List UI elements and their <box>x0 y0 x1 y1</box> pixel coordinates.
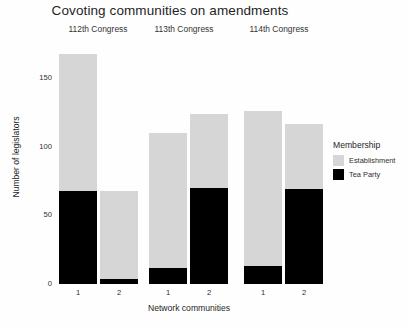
y-tick-label-150: 150 <box>30 73 52 82</box>
y-axis-title: Number of legislators <box>11 97 21 217</box>
x-tick-label: 2 <box>100 288 138 297</box>
y-tick-label-50: 50 <box>30 210 52 219</box>
facet-panel-112th <box>55 44 139 284</box>
facet-label-112th: 112th Congress <box>53 24 143 34</box>
facet-label-114th: 114th Congress <box>234 24 324 34</box>
x-tick-label: 1 <box>59 288 97 297</box>
legend: Membership Establishment Tea Party <box>333 140 407 183</box>
x-tick-label: 1 <box>244 288 282 297</box>
y-tick-label-100: 100 <box>30 142 52 151</box>
bar-segment-tea-party[interactable] <box>149 268 187 284</box>
bar-segment-tea-party[interactable] <box>285 189 323 284</box>
legend-swatch-establishment <box>333 155 344 166</box>
bar-segment-tea-party[interactable] <box>100 279 138 284</box>
legend-label-teaparty: Tea Party <box>349 170 380 179</box>
facet-panel-113th <box>145 44 229 284</box>
y-axis: 150 100 50 0 <box>26 0 52 328</box>
bar-segment-establishment[interactable] <box>100 191 138 279</box>
x-tick-label: 2 <box>190 288 228 297</box>
plot-area <box>55 44 323 284</box>
legend-item-establishment[interactable]: Establishment <box>333 155 407 166</box>
legend-title: Membership <box>333 140 407 150</box>
facet-panel-114th <box>240 44 324 284</box>
legend-label-establishment: Establishment <box>349 156 395 165</box>
x-tick-label: 1 <box>149 288 187 297</box>
bar-segment-establishment[interactable] <box>190 114 228 188</box>
bar-segment-establishment[interactable] <box>59 54 97 191</box>
x-tick-label: 2 <box>285 288 323 297</box>
facet-label-113th: 113th Congress <box>139 24 229 34</box>
bar-segment-tea-party[interactable] <box>244 266 282 284</box>
bar-segment-establishment[interactable] <box>285 124 323 190</box>
legend-swatch-teaparty <box>333 169 344 180</box>
bar-segment-establishment[interactable] <box>149 133 187 267</box>
y-tick-label-0: 0 <box>30 279 52 288</box>
chart-figure: Covoting communities on amendments 112th… <box>0 0 407 328</box>
bar-segment-establishment[interactable] <box>244 111 282 266</box>
x-axis-title: Network communities <box>55 303 323 313</box>
bar-segment-tea-party[interactable] <box>190 188 228 284</box>
bar-segment-tea-party[interactable] <box>59 191 97 284</box>
legend-item-teaparty[interactable]: Tea Party <box>333 169 407 180</box>
